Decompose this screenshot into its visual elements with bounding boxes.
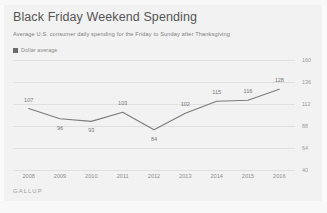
scan-artifact [0,201,327,213]
x-axis-tick-label: 2008 [22,173,34,179]
legend-label: Dollar average [21,47,57,53]
y-axis-tick-label: 40 [302,167,308,173]
y-axis-tick-label: 88 [302,123,308,129]
scanned-page: Black Friday Weekend Spending Average U.… [0,0,327,213]
x-axis-tick-label: 2009 [54,173,66,179]
data-point-label: 103 [118,100,127,106]
chart-card: Black Friday Weekend Spending Average U.… [4,5,322,201]
y-axis-tick-label: 160 [302,57,311,63]
y-axis-tick-label: 64 [302,145,308,151]
data-point-label: 102 [181,101,190,107]
data-point-label: 84 [151,136,157,142]
x-axis-tick-label: 2010 [85,173,97,179]
line-series [13,60,295,170]
source-attribution: GALLUP [13,188,43,194]
y-axis-tick-label: 112 [302,101,311,107]
x-axis-tick-label: 2016 [273,173,285,179]
plot-area: 107969310384102115116128 [13,60,295,170]
x-axis-tick-label: 2015 [242,173,254,179]
data-point-label: 93 [88,127,94,133]
data-point-label: 115 [212,89,221,95]
x-axis-tick-label: 2013 [179,173,191,179]
data-point-label: 128 [275,77,284,83]
data-point-label: 116 [244,88,253,94]
data-point-label: 96 [57,125,63,131]
legend-swatch-icon [13,48,18,53]
x-axis-tick-label: 2014 [210,173,222,179]
x-axis: 200820092010201120122013201420152016 [13,173,295,185]
chart-subtitle: Average U.S. consumer daily spending for… [13,31,230,37]
x-axis-tick-label: 2012 [148,173,160,179]
chart-legend: Dollar average [13,47,57,53]
x-axis-tick-label: 2011 [117,173,129,179]
y-axis-tick-label: 136 [302,79,311,85]
y-axis: 160136112886440 [297,60,325,170]
gridline [13,170,295,171]
chart-title: Black Friday Weekend Spending [13,10,197,24]
data-point-label: 107 [24,97,33,103]
